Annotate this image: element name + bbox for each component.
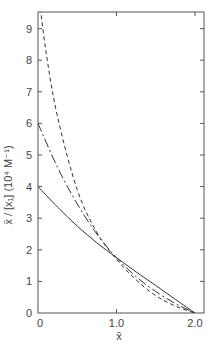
- x-tick-label: 1.0: [109, 317, 124, 329]
- plot-frame: [38, 12, 204, 313]
- series-lines: [38, 0, 195, 313]
- y-tick-label: 4: [26, 181, 32, 193]
- y-tick-label: 3: [26, 212, 32, 224]
- series-solid: [38, 187, 195, 313]
- series-dash-dot: [38, 123, 195, 313]
- x-tick-label: 2.0: [187, 317, 202, 329]
- y-axis-ticks: 0123456789: [26, 23, 204, 319]
- x-axis-ticks: 01.02.0: [37, 12, 203, 329]
- chart: 0123456789 01.02.0 x̄ x̄ / [x₁] (10⁴ M⁻¹…: [0, 0, 212, 347]
- y-tick-label: 6: [26, 117, 32, 129]
- series-dashed: [38, 0, 195, 313]
- y-tick-label: 7: [26, 86, 32, 98]
- x-tick-label: 0: [37, 317, 43, 329]
- x-axis-label: x̄: [116, 330, 122, 342]
- y-tick-label: 0: [26, 307, 32, 319]
- y-tick-label: 2: [26, 244, 32, 256]
- y-tick-label: 8: [26, 54, 32, 66]
- y-tick-label: 9: [26, 23, 32, 35]
- y-tick-label: 5: [26, 149, 32, 161]
- y-tick-label: 1: [26, 275, 32, 287]
- y-axis-label: x̄ / [x₁] (10⁴ M⁻¹): [2, 145, 14, 224]
